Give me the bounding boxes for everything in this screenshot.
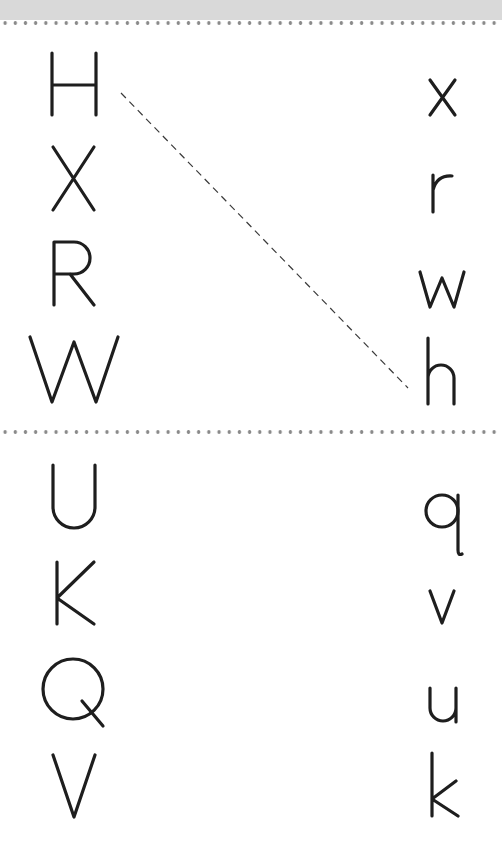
- letter-Q: [43, 659, 103, 726]
- letter-h: [428, 338, 454, 404]
- letter-q: [426, 495, 462, 555]
- letter-K: [57, 562, 94, 624]
- letter-H: [52, 53, 96, 115]
- letter-V: [53, 755, 95, 817]
- letter-v: [430, 591, 454, 623]
- letter-U: [53, 465, 95, 528]
- letter-r: [433, 175, 452, 212]
- worksheet-canvas: [0, 0, 502, 851]
- letter-R: [54, 242, 94, 305]
- letter-w: [420, 272, 464, 307]
- letter-x: [430, 80, 455, 115]
- letter-W: [30, 337, 118, 402]
- example-match-line: [121, 93, 408, 388]
- letter-k: [432, 753, 458, 816]
- letter-u: [430, 688, 456, 722]
- letter-X: [53, 147, 94, 210]
